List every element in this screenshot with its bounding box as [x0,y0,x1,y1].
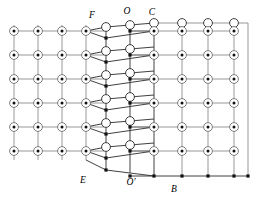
open-node [204,19,213,28]
dotted-node [230,123,239,132]
square-node [128,53,131,56]
dotted-node [10,123,19,132]
square-node [232,174,235,177]
dotted-node [58,51,67,60]
right-lattice-nodes [150,27,239,156]
left-lattice-edges [14,25,104,160]
dotted-node [10,27,19,36]
dotted-node [82,99,91,108]
lattice-figure: F O C E O′ B [0,0,262,197]
dotted-node [178,51,187,60]
open-node [126,117,135,126]
dotted-node [58,27,67,36]
dotted-node [230,51,239,60]
square-node-B [180,174,183,177]
dotted-node [10,51,19,60]
edge-skew-h [86,160,106,170]
square-node [104,60,107,63]
dotted-node [230,27,239,36]
dotted-node [150,27,159,36]
square-node [104,36,107,39]
dotted-node [178,147,187,156]
square-node [104,84,107,87]
dotted-node [34,75,43,84]
dotted-node [34,51,43,60]
dotted-node-F [82,27,91,36]
square-node [128,101,131,104]
dotted-node [204,147,213,156]
dotted-node [82,51,91,60]
open-node [126,45,135,54]
dotted-node [82,75,91,84]
dotted-node [230,75,239,84]
square-node [128,29,131,32]
label-O: O [124,6,131,16]
transition-lattice-edges [86,23,154,176]
dotted-node [178,75,187,84]
open-node [102,47,111,56]
square-node [152,174,155,177]
dotted-node [34,99,43,108]
square-node-Oprime [104,168,107,171]
dotted-node [34,147,43,156]
square-node [128,149,131,152]
dotted-node [204,27,213,36]
open-node [126,93,135,102]
dotted-node [34,123,43,132]
dotted-node [150,123,159,132]
dotted-node [150,75,159,84]
left-lattice-nodes [10,27,91,156]
square-node [104,132,107,135]
square-node [104,156,107,159]
square-node [246,174,249,177]
dotted-node [10,75,19,84]
dotted-node [150,147,159,156]
dotted-node [204,99,213,108]
square-node [128,125,131,128]
dotted-node [58,99,67,108]
dotted-node [150,99,159,108]
dotted-node [178,99,187,108]
dotted-node [10,147,19,156]
square-node [206,174,209,177]
dotted-node [230,147,239,156]
open-node [102,119,111,128]
open-node-O [126,21,135,30]
open-node [126,69,135,78]
label-C: C [149,7,156,17]
dotted-node [178,123,187,132]
dotted-node [178,27,187,36]
label-O-prime: O′ [127,177,137,187]
open-node [102,23,111,32]
label-B: B [171,184,177,194]
open-node [102,95,111,104]
dotted-node [10,99,19,108]
label-F: F [88,10,95,20]
dotted-node [34,27,43,36]
dotted-node [204,75,213,84]
dotted-node [58,123,67,132]
dotted-node [150,51,159,60]
dotted-node [230,99,239,108]
lattice-diagram: F O C E O′ B [0,0,262,197]
dotted-node [58,75,67,84]
open-node [102,71,111,80]
dotted-node [58,147,67,156]
open-node [126,141,135,150]
square-node [128,77,131,80]
open-node [178,19,187,28]
label-E: E [79,175,86,185]
dotted-node [82,123,91,132]
open-node-C [150,19,159,28]
open-node [102,143,111,152]
dotted-node [204,51,213,60]
square-node [104,108,107,111]
dotted-node-E [82,147,91,156]
open-node [230,19,239,28]
dotted-node [204,123,213,132]
